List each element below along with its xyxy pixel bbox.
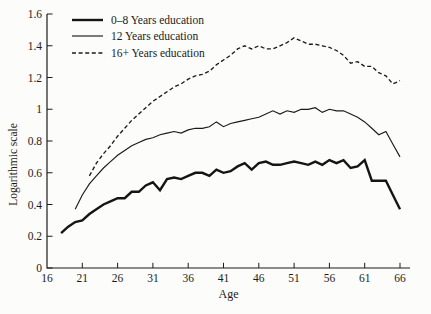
legend-item-0-8-years: 0–8 Years education: [71, 13, 205, 26]
series-thin-solid: [75, 108, 400, 210]
legend-label: 12 Years education: [111, 30, 198, 42]
thick-solid-line-icon: [71, 14, 104, 26]
y-tick-label: 1: [36, 103, 42, 115]
y-tick-label: 1.2: [28, 72, 43, 84]
x-tick-label: 61: [359, 272, 371, 284]
x-tick-label: 26: [112, 272, 124, 284]
x-tick-label: 31: [147, 272, 159, 284]
x-tick-label: 41: [218, 272, 230, 284]
y-tick-label: 1.6: [28, 8, 43, 20]
x-axis-title: Age: [47, 287, 410, 302]
x-tick-label: 16: [41, 272, 53, 284]
y-tick-label: 0.8: [28, 135, 43, 147]
y-tick-label: 0.6: [28, 167, 43, 179]
y-tick-label: 0.2: [28, 230, 43, 242]
earnings-age-profile-chart: 00.20.40.60.811.21.41.616212631364146515…: [0, 0, 431, 314]
x-tick-label: 51: [288, 272, 300, 284]
x-tick-label: 21: [77, 272, 89, 284]
legend-item-16plus-years: 16+ Years education: [71, 46, 205, 59]
series-thick-solid: [61, 160, 400, 233]
y-tick-label: 0.4: [28, 199, 43, 211]
legend: 0–8 Years education 12 Years education 1…: [71, 13, 205, 63]
x-tick-label: 36: [182, 272, 194, 284]
x-tick-label: 46: [253, 272, 265, 284]
dashed-line-icon: [71, 47, 104, 59]
thin-solid-line-icon: [71, 30, 104, 42]
chart-canvas: 00.20.40.60.811.21.41.616212631364146515…: [0, 0, 431, 314]
legend-label: 16+ Years education: [111, 47, 205, 59]
x-tick-label: 56: [324, 272, 336, 284]
legend-label: 0–8 Years education: [111, 14, 204, 26]
y-tick-label: 1.4: [28, 40, 43, 52]
y-axis-title: Logarithmic scale: [7, 110, 22, 220]
x-tick-label: 66: [394, 272, 406, 284]
legend-item-12-years: 12 Years education: [71, 30, 205, 43]
